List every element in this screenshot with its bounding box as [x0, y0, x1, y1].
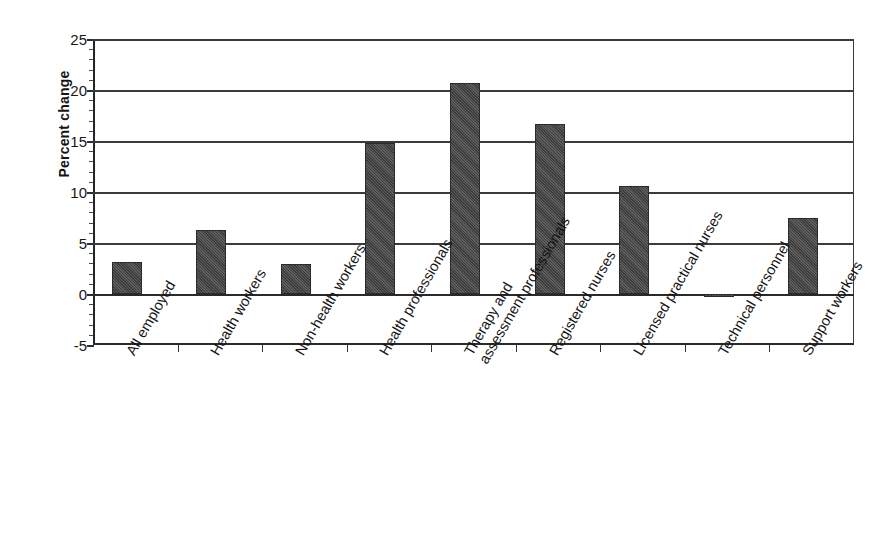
y-tick-label: 0	[43, 286, 87, 303]
y-tick-label: 20	[43, 82, 87, 99]
bar	[619, 186, 649, 294]
y-tick-label: 25	[43, 31, 87, 48]
bar	[365, 143, 395, 294]
y-tick-label: 10	[43, 184, 87, 201]
y-tick-label: 5	[43, 235, 87, 252]
x-axis-category-labels: All employedHealth workersNon-health wor…	[93, 300, 854, 539]
y-tick-label: -5	[43, 337, 87, 354]
bar-chart: Percent change -50510152025 All employed…	[0, 0, 872, 539]
y-axis-tick-labels: -50510152025	[41, 39, 87, 345]
bar	[281, 264, 311, 294]
bar	[450, 83, 480, 294]
bar	[704, 294, 734, 297]
bar	[196, 230, 226, 294]
bar	[788, 218, 818, 295]
y-tick-label: 15	[43, 133, 87, 150]
bar	[112, 262, 142, 294]
